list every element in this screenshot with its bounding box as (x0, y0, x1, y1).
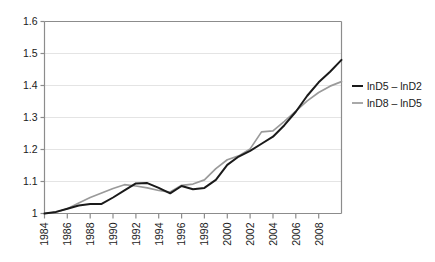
chart-figure: 11.11.21.31.41.51.6 19841986198819901992… (0, 0, 435, 262)
x-tick-label: 2004 (267, 222, 279, 246)
y-tick-label: 1.5 (23, 47, 38, 59)
x-tick-label: 1998 (198, 222, 210, 246)
y-tick-label: 1.2 (23, 143, 38, 155)
x-tick-label: 1990 (107, 222, 119, 246)
line-chart-svg: 11.11.21.31.41.51.6 19841986198819901992… (0, 0, 435, 262)
x-tick-label: 2002 (244, 222, 256, 246)
x-tick-label: 1996 (175, 222, 187, 246)
y-tick-label: 1.4 (23, 79, 38, 91)
y-tick-label: 1.3 (23, 111, 38, 123)
x-tick-label: 1984 (38, 222, 50, 246)
x-tick-label: 1988 (84, 222, 96, 246)
x-tick-label: 1994 (153, 222, 165, 246)
y-tick-label: 1 (32, 207, 38, 219)
x-tick-label: 1986 (61, 222, 73, 246)
x-tick-label: 2008 (313, 222, 325, 246)
legend-label-2: lnD8 – lnD5 (367, 97, 422, 109)
legend-label-1: lnD5 – lnD2 (367, 80, 422, 92)
x-tick-label: 2006 (290, 222, 302, 246)
y-tick-label: 1.1 (23, 175, 38, 187)
y-tick-label: 1.6 (23, 15, 38, 27)
x-tick-label: 2000 (221, 222, 233, 246)
x-tick-label: 1992 (130, 222, 142, 246)
